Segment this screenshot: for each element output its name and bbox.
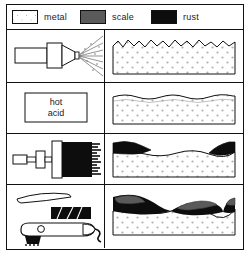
rough-profile-metal-icon <box>105 30 243 81</box>
result-cell-scale-and-rust-remnants-metal <box>105 185 243 248</box>
tool-cell-acid-bath: hot acid <box>7 83 105 133</box>
legend-item-rust: rust <box>151 5 199 29</box>
spray-nozzle-icon <box>7 30 105 81</box>
acid-label-line1: hot <box>50 97 63 107</box>
acid-tank-icon: hot acid <box>7 83 105 132</box>
scale-and-rust-remnants-metal-icon <box>105 185 243 246</box>
legend-item-scale: scale <box>80 5 134 29</box>
legend: metal scale rust <box>7 5 243 30</box>
scale-swatch-icon <box>80 10 106 24</box>
legend-label-scale: scale <box>112 12 134 22</box>
wire-brush-icon <box>7 134 105 183</box>
result-cell-smooth-wavy-metal <box>105 83 243 133</box>
smooth-wavy-metal-icon <box>105 83 243 132</box>
power-grinder-icon <box>7 185 105 246</box>
rust-patch <box>209 142 235 155</box>
diagram-row-abrasive-blasting <box>7 30 243 83</box>
legend-item-metal: metal <box>12 5 67 29</box>
legend-label-metal: metal <box>44 12 67 22</box>
acid-label-line2: acid <box>48 108 65 118</box>
tool-cell-wire-brush <box>7 134 105 184</box>
metal-swatch-icon <box>12 10 38 24</box>
diagram-figure: metal scale rust <box>6 4 244 250</box>
tool-cell-spray-nozzle <box>7 30 105 82</box>
rust-swatch-icon <box>151 10 177 24</box>
result-cell-rough-profile-metal <box>105 30 243 82</box>
legend-label-rust: rust <box>183 12 199 22</box>
rust-patch <box>113 142 151 155</box>
partially-cleaned-metal-icon <box>105 134 243 183</box>
tool-cell-power-grinder <box>7 185 105 248</box>
scale-patch <box>226 198 235 205</box>
diagram-row-wire-brushing <box>7 134 243 185</box>
diagram-row-power-tool-grinding <box>7 185 243 248</box>
result-cell-partially-cleaned-metal <box>105 134 243 184</box>
diagram-row-acid-pickling: hot acid <box>7 83 243 134</box>
